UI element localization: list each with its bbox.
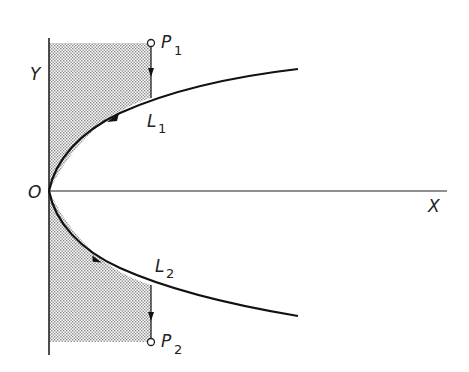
- label-y-axis: Y: [30, 64, 42, 84]
- label-x-axis: X: [427, 196, 440, 216]
- label-p1: P: [161, 32, 172, 52]
- parabola-diagram: Y O X P 1 P 2 L 1 L 2: [0, 0, 469, 372]
- label-p2-sub: 2: [174, 342, 182, 357]
- shaded-region-upper: [49, 43, 151, 191]
- label-L1-sub: 1: [158, 121, 166, 136]
- label-L1: L: [147, 111, 156, 131]
- label-p1-sub: 1: [174, 43, 182, 58]
- label-origin: O: [28, 182, 41, 202]
- point-p1: [148, 40, 155, 47]
- label-L2: L: [155, 256, 164, 276]
- point-p2: [148, 339, 155, 346]
- label-p2: P: [161, 331, 172, 351]
- label-L2-sub: 2: [166, 266, 174, 281]
- shaded-region-lower: [49, 191, 151, 342]
